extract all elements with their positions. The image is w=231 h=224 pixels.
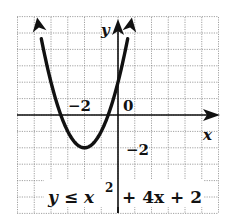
equation-label: y ≤ x 2 + 4x + 2 [44, 180, 204, 213]
x-axis-label: x [202, 126, 213, 144]
curve-arrow-icon [123, 18, 137, 33]
equation-rest: + 4x + 2 [122, 187, 202, 207]
inequality-graph: y x 0 −2 −2 y ≤ x 2 + 4x + 2 [0, 0, 231, 224]
y-axis-label: y [100, 21, 111, 39]
equation-exponent: 2 [105, 181, 113, 195]
y-tick-label-neg2: −2 [126, 141, 149, 159]
curve-arrow-icon [33, 18, 47, 33]
origin-label: 0 [123, 97, 133, 115]
x-tick-label-neg2: −2 [68, 97, 91, 115]
equation-le: ≤ [64, 187, 78, 207]
equation-x: x [83, 187, 95, 207]
equation-y: y [47, 187, 59, 207]
